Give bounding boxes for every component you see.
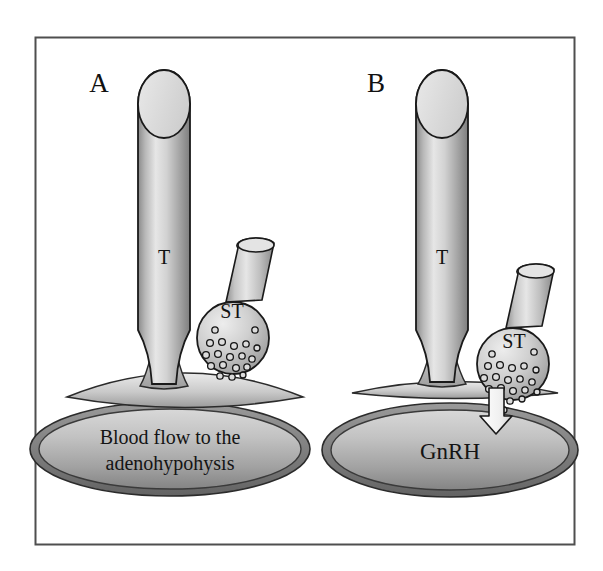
panel-b-ellipse-label: GnRH [420,439,480,464]
figure-page: A T ST Blood flow to the adenohypohysis [0,0,603,571]
panel-a-ellipse-label-line1: Blood flow to the [100,426,241,448]
panel-a-tuberal-label: T [158,246,170,268]
anatomical-diagram: A T ST Blood flow to the adenohypohysis [0,0,603,571]
panel-b-saccus-label: ST [502,330,525,352]
panel-b-tuberal-cylinder [416,70,468,387]
panel-a-ellipse-label-line2: adenohypohysis [106,452,235,475]
panel-a-saccus-label: ST [220,300,243,322]
panel-a-blood-ellipse [30,402,310,496]
panel-b-tuberal-label: T [436,246,448,268]
panel-a-letter: A [89,68,109,98]
panel-b-letter: B [367,68,385,98]
panel-a-tuberal-cylinder [138,70,190,389]
